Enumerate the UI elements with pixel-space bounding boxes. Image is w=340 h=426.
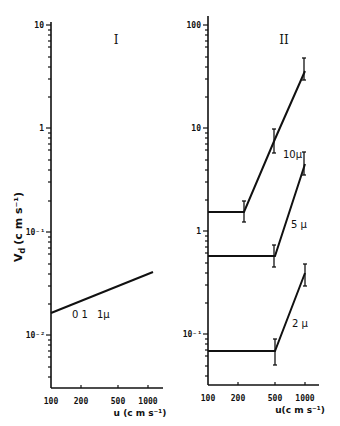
p2-series-label-10mu: 10μ bbox=[283, 149, 303, 160]
p1-ytick-em1: 10⁻¹ bbox=[26, 228, 45, 237]
p2-xtick-100: 100 bbox=[201, 394, 216, 403]
p2-ytick-1: 1 bbox=[196, 227, 201, 236]
p2-series-10mu bbox=[208, 71, 305, 212]
p1-xtick-200: 200 bbox=[74, 397, 89, 406]
p2-panel-label: II bbox=[279, 33, 289, 47]
p1-xtick-1000: 1000 bbox=[138, 397, 157, 406]
p1-series-label-01: 0 1 bbox=[72, 309, 88, 320]
p1-x-axis-title: u (c m s⁻¹) bbox=[114, 408, 167, 418]
p2-ytick-100: 100 bbox=[187, 21, 202, 30]
p1-series-0.1mu bbox=[51, 272, 153, 313]
panel-1: 10 1 10⁻¹ 10⁻² 100 200 500 1000 u (c m s… bbox=[26, 21, 167, 418]
p2-errorbars-10mu bbox=[242, 58, 306, 222]
p2-ytick-em1: 10⁻¹ bbox=[183, 330, 202, 339]
p1-series-label-1mu: 1μ bbox=[97, 309, 110, 320]
svg-text:Vd(c m s⁻¹): Vd(c m s⁻¹) bbox=[12, 192, 27, 262]
p1-ytick-1: 1 bbox=[39, 124, 44, 133]
p1-xtick-500: 500 bbox=[111, 397, 126, 406]
p1-ytick-em2: 10⁻² bbox=[26, 331, 45, 340]
figure: 10 1 10⁻¹ 10⁻² 100 200 500 1000 u (c m s… bbox=[0, 0, 340, 426]
p1-xtick-100: 100 bbox=[44, 397, 59, 406]
p1-ytick-10: 10 bbox=[34, 21, 44, 30]
p2-series-5mu bbox=[208, 164, 305, 256]
p2-xtick-1000: 1000 bbox=[295, 394, 314, 403]
panel-2: 100 10 1 10⁻¹ 100 200 500 1000 u(c m s⁻¹… bbox=[183, 16, 325, 415]
p2-series-label-5mu: 5 μ bbox=[291, 219, 308, 230]
p2-ytick-10: 10 bbox=[191, 124, 201, 133]
p2-series-label-2mu: 2 μ bbox=[292, 318, 309, 329]
y-axis-title: Vd(c m s⁻¹) bbox=[12, 192, 27, 262]
p2-x-axis-title: u(c m s⁻¹) bbox=[275, 405, 325, 415]
p1-panel-label: I bbox=[114, 33, 119, 47]
p2-series-2mu bbox=[208, 273, 305, 351]
p2-xtick-200: 200 bbox=[231, 394, 246, 403]
p2-xtick-500: 500 bbox=[268, 394, 283, 403]
